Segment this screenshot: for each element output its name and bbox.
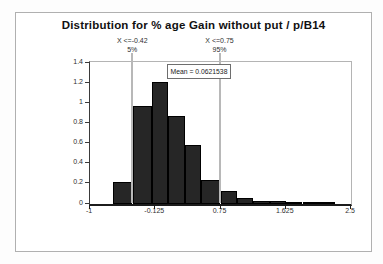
scanned-chart-page: { "title": "Distribution for % age Gain … [0, 0, 383, 264]
x-axis-tick-mark [285, 205, 286, 209]
percentile-x-label: X <=0.75 [205, 37, 233, 44]
histogram-bar [319, 202, 335, 204]
percentile-x-label: X <=-0.42 [117, 37, 148, 44]
mean-annotation-box: Mean = 0.0621538 [167, 64, 231, 79]
percentile-percent-label: 95% [212, 46, 226, 53]
histogram-bar [286, 202, 302, 204]
plot-area [89, 61, 352, 206]
y-axis-tick-mark [85, 62, 89, 63]
chart-title: Distribution for % age Gain without put … [15, 19, 372, 31]
y-axis-tick-mark [85, 142, 89, 143]
histogram-bar [237, 198, 253, 204]
y-axis-tick-label: 0 [53, 199, 83, 206]
histogram-bar [113, 182, 132, 203]
histogram-bar [133, 106, 152, 204]
x-axis-tick-mark [154, 205, 155, 209]
y-axis-tick-mark [85, 203, 89, 204]
histogram-bar [270, 201, 286, 204]
x-axis-tick-mark [350, 205, 351, 209]
y-axis-tick-label: 1.4 [53, 58, 83, 65]
x-axis-tick-mark [89, 205, 90, 209]
histogram-bar [152, 82, 168, 204]
y-axis-tick-label: 0.6 [53, 138, 83, 145]
histogram-bar [253, 201, 269, 204]
y-axis-tick-mark [85, 82, 89, 83]
histogram-bar [185, 145, 201, 203]
y-axis-tick-mark [85, 122, 89, 123]
histogram-bar [221, 191, 237, 203]
y-axis-tick-label: 0.4 [53, 158, 83, 165]
y-axis-tick-label: 0.8 [53, 118, 83, 125]
mean-annotation-label: Mean = 0.0621538 [171, 68, 228, 75]
histogram-bar [168, 116, 184, 204]
x-axis-tick-mark [220, 205, 221, 209]
y-axis-tick-label: 1 [53, 98, 83, 105]
y-axis-tick-label: 1.2 [53, 78, 83, 85]
y-axis-tick-mark [85, 182, 89, 183]
histogram-bar [303, 202, 319, 204]
percentile-delimiter-line [131, 53, 133, 203]
y-axis-tick-mark [85, 162, 89, 163]
y-axis-tick-label: 0.2 [53, 178, 83, 185]
y-axis-tick-mark [85, 102, 89, 103]
percentile-percent-label: 5% [127, 46, 137, 53]
